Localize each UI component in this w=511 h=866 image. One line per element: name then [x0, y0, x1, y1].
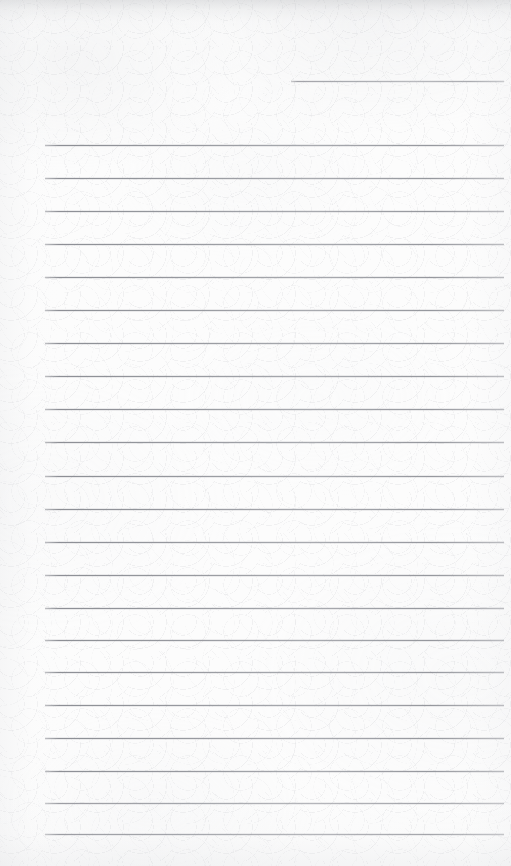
ruled-line [45, 145, 504, 146]
ruled-line [45, 376, 504, 377]
ruled-line [291, 81, 504, 82]
ruled-line [45, 277, 504, 278]
ruled-line [45, 803, 504, 804]
ruled-line [45, 705, 504, 706]
ruled-line [45, 476, 504, 477]
ruled-line [45, 244, 504, 245]
scanned-notebook-page [0, 0, 511, 866]
ruled-line [45, 672, 504, 673]
ruled-lines-layer [0, 0, 511, 866]
ruled-line [45, 310, 504, 311]
ruled-line [45, 542, 504, 543]
ruled-line [45, 343, 504, 344]
ruled-line [45, 575, 504, 576]
ruled-line [45, 738, 504, 739]
ruled-line [45, 409, 504, 410]
ruled-line [45, 509, 504, 510]
ruled-line [45, 178, 504, 179]
ruled-line [45, 834, 504, 835]
ruled-line [45, 442, 504, 443]
ruled-line [45, 640, 504, 641]
ruled-line [45, 608, 504, 609]
ruled-line [45, 211, 504, 212]
ruled-line [45, 771, 504, 772]
